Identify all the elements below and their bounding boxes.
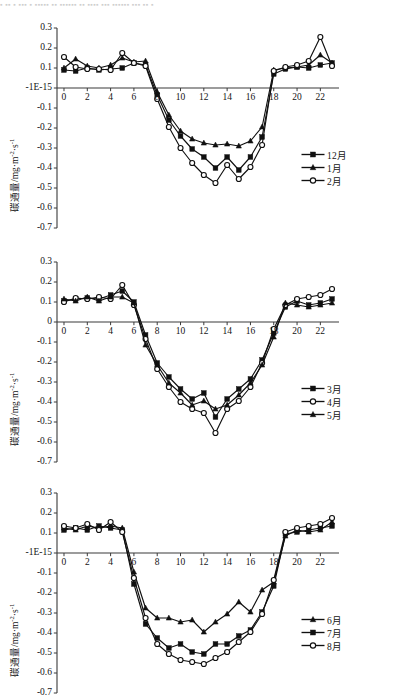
y-tick-label: -0.5 [37, 417, 52, 427]
y-tick-label: -0.4 [37, 397, 52, 407]
panel-spring: 0.30.20.10-0.1-0.2-0.3-0.4-0.5-0.6-0.702… [0, 252, 409, 484]
series-3 [61, 516, 334, 667]
y-tick-label: -1E-15 [26, 83, 52, 93]
y-tick-label: -1E-15 [26, 548, 52, 558]
y-tick-label: -0.6 [37, 668, 52, 678]
y-tick-label: -0.2 [37, 588, 52, 598]
legend-item: 12月 [300, 148, 347, 161]
y-tick-label: -0.5 [37, 648, 52, 658]
legend-item: 1月 [300, 161, 347, 174]
series-2 [62, 524, 335, 657]
y-tick-label: 0.3 [40, 257, 52, 267]
y-tick-label: -0.4 [37, 163, 52, 173]
y-tick-label: 0.1 [40, 63, 52, 73]
panel-summer-legend: 6月7月8月 [300, 613, 342, 652]
y-tick-label: 0.2 [40, 43, 52, 53]
y-tick-label: 0.3 [40, 23, 52, 33]
legend-item: 5月 [300, 408, 342, 421]
legend-label: 6月 [326, 613, 342, 627]
y-axis-title: 碳通量/mg·m-2·s-1 [11, 604, 21, 677]
y-tick-label: -0.7 [37, 457, 52, 467]
legend-item: 3月 [300, 382, 342, 395]
legend-item: 4月 [300, 395, 342, 408]
legend-item: 6月 [300, 613, 342, 626]
panel-winter: 0.30.20.1-1E-15-0.1-0.2-0.3-0.4-0.5-0.6-… [0, 18, 409, 250]
panel-spring-legend: 3月4月5月 [300, 382, 342, 421]
y-tick-label: -0.1 [37, 103, 52, 113]
y-tick-label: -0.1 [37, 337, 52, 347]
legend-label: 8月 [326, 639, 342, 653]
legend-label: 3月 [326, 382, 342, 396]
legend-label: 12月 [326, 148, 347, 162]
y-tick-label: -0.2 [37, 357, 52, 367]
x-tick-label: 22 [306, 93, 334, 103]
legend-item: 7月 [300, 626, 342, 639]
legend-marker-icon [300, 626, 326, 639]
series-1 [62, 289, 335, 420]
legend-label: 7月 [326, 626, 342, 640]
legend-marker-icon [300, 395, 326, 408]
x-tick-label: 22 [306, 558, 334, 568]
y-tick-label: -0.3 [37, 377, 52, 387]
series-1 [62, 61, 335, 173]
y-tick-label: -0.7 [37, 688, 52, 698]
panel-spring-plot [0, 252, 409, 484]
y-tick-label: -0.4 [37, 628, 52, 638]
legend-marker-icon [300, 161, 326, 174]
legend-label: 5月 [326, 408, 342, 422]
panel-winter-plot [0, 18, 409, 250]
y-tick-label: 0 [47, 317, 52, 327]
y-tick-label: -0.1 [37, 568, 52, 578]
y-tick-label: 0.2 [40, 277, 52, 287]
legend-marker-icon [300, 639, 326, 652]
x-tick-label: 22 [306, 327, 334, 337]
panel-summer-plot [0, 483, 409, 700]
series-2 [61, 283, 334, 436]
axes [54, 28, 339, 228]
y-tick-label: -0.2 [37, 123, 52, 133]
legend-item: 2月 [300, 174, 347, 187]
y-axis-title: 碳通量/mg·m-2·s-1 [11, 139, 21, 212]
legend-marker-icon [300, 613, 326, 626]
legend-marker-icon [300, 408, 326, 421]
y-axis-title: 碳通量/mg·m-2·s-1 [11, 373, 21, 446]
figure-carbon-flux-diurnal: 0.30.20.1-1E-15-0.1-0.2-0.3-0.4-0.5-0.6-… [0, 0, 409, 700]
y-tick-label: -0.6 [37, 437, 52, 447]
y-tick-label: -0.6 [37, 203, 52, 213]
panel-winter-legend: 12月1月2月 [300, 148, 347, 187]
series-3 [61, 35, 334, 186]
panel-summer: 0.30.20.1-1E-15-0.1-0.2-0.3-0.4-0.5-0.6-… [0, 483, 409, 700]
legend-label: 4月 [326, 395, 342, 409]
y-tick-label: 0.1 [40, 297, 52, 307]
y-tick-label: 0.1 [40, 528, 52, 538]
y-tick-label: -0.3 [37, 143, 52, 153]
legend-item: 8月 [300, 639, 342, 652]
legend-label: 2月 [326, 174, 342, 188]
y-tick-label: -0.3 [37, 608, 52, 618]
y-tick-label: -0.7 [37, 223, 52, 233]
legend-label: 1月 [326, 161, 342, 175]
legend-marker-icon [300, 148, 326, 161]
series-3 [61, 294, 334, 411]
y-tick-label: -0.5 [37, 183, 52, 193]
legend-marker-icon [300, 382, 326, 395]
axes [54, 262, 339, 462]
series-1 [61, 519, 334, 634]
legend-marker-icon [300, 174, 326, 187]
y-tick-label: 0.2 [40, 508, 52, 518]
y-tick-label: 0.3 [40, 488, 52, 498]
